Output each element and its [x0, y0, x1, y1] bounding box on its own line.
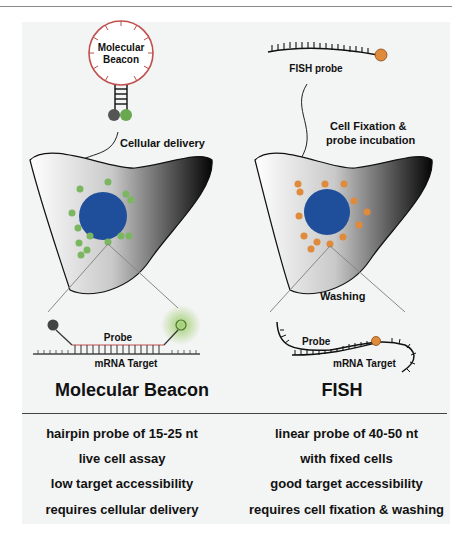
fish-probe-icon	[268, 42, 387, 61]
cellular-delivery-label: Cellular delivery	[120, 137, 206, 149]
right-probe-label: Probe	[302, 336, 331, 347]
fish-probe-label: FISH probe	[289, 63, 343, 74]
fixation-label-2: probe incubation	[326, 134, 416, 146]
right-property: with fixed cells	[244, 451, 449, 466]
right-target-label: mRNA Target	[333, 358, 396, 369]
beacon-label-2: Beacon	[103, 54, 139, 65]
left-property: live cell assay	[22, 451, 222, 466]
nucleus-right	[304, 189, 350, 235]
header-divider	[22, 413, 447, 414]
molecular-beacon-icon	[89, 21, 153, 121]
header-molecular-beacon: Molecular Beacon	[42, 380, 222, 401]
fixation-label-1: Cell Fixation &	[330, 120, 406, 132]
header-fish: FISH	[252, 380, 432, 401]
beacon-label: Molecular	[98, 42, 145, 53]
left-property: hairpin probe of 15-25 nt	[22, 426, 222, 441]
right-property: linear probe of 40-50 nt	[244, 426, 449, 441]
right-property: good target accessibility	[244, 476, 449, 491]
right-property: requires cell fixation & washing	[244, 502, 449, 517]
left-property: requires cellular delivery	[22, 502, 222, 517]
beacon-hybrid-icon	[33, 305, 201, 354]
washing-label: Washing	[320, 290, 365, 302]
left-probe-label: Probe	[104, 332, 133, 343]
left-target-label: mRNA Target	[95, 358, 158, 369]
left-property: low target accessibility	[22, 476, 222, 491]
diagram-illustration: Molecular Beacon Cellular delivery	[0, 0, 471, 380]
fixation-arrow	[300, 84, 307, 160]
